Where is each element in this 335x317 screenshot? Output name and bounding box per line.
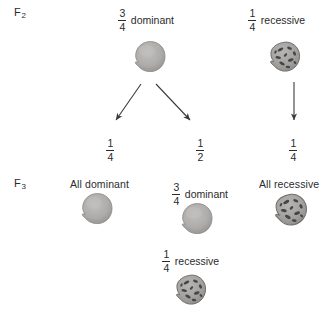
generation-label-f2-text: F xyxy=(14,6,21,18)
f2-dominant-word: dominant xyxy=(131,14,174,26)
f2-dominant-label: 3 4 dominant xyxy=(118,8,174,32)
f3-all-dominant-label: All dominant xyxy=(70,178,129,190)
f2-recessive-seed xyxy=(268,40,302,74)
f2-recessive-denominator: 4 xyxy=(248,21,257,33)
generation-label-f3-text: F xyxy=(14,177,21,189)
ratio-left-numerator: 1 xyxy=(106,138,115,150)
generation-label-f3: F3 xyxy=(14,177,26,189)
f3-segregating-dominant-word: dominant xyxy=(185,188,228,200)
f2-recessive-numerator: 1 xyxy=(248,8,257,20)
ratio-middle-denominator: 2 xyxy=(196,151,205,163)
ratio-left-denominator: 4 xyxy=(106,151,115,163)
f2-dominant-denominator: 4 xyxy=(118,21,127,33)
generation-label-f2: F2 xyxy=(14,6,26,18)
f2-dominant-seed xyxy=(133,40,167,74)
f3-all-dominant-seed xyxy=(80,192,114,226)
ratio-left: 1 4 xyxy=(106,138,115,162)
f3-segregating-dominant-numerator: 3 xyxy=(172,182,181,194)
f3-segregating-recessive-denominator: 4 xyxy=(162,262,171,274)
arrow-f2-dominant-to-middle xyxy=(156,84,190,120)
ratio-right-numerator: 1 xyxy=(289,138,298,150)
ratio-middle-fraction: 1 2 xyxy=(196,138,205,162)
f2-recessive-word: recessive xyxy=(261,14,305,26)
generation-label-f3-subscript: 3 xyxy=(21,182,26,191)
f3-segregating-recessive-word: recessive xyxy=(175,255,219,267)
ratio-middle-numerator: 1 xyxy=(196,138,205,150)
ratio-right-fraction: 1 4 xyxy=(289,138,298,162)
f2-recessive-fraction: 1 4 xyxy=(248,8,257,32)
ratio-middle: 1 2 xyxy=(196,138,205,162)
f2-dominant-numerator: 3 xyxy=(118,8,127,20)
arrow-f2-dominant-to-left xyxy=(116,84,141,120)
f3-segregating-recessive-label: 1 4 recessive xyxy=(162,249,219,273)
ratio-right-denominator: 4 xyxy=(289,151,298,163)
generation-label-f2-subscript: 2 xyxy=(21,11,26,20)
f2-dominant-fraction: 3 4 xyxy=(118,8,127,32)
f3-segregating-recessive-seed xyxy=(174,273,208,307)
f3-all-recessive-label: All recessive xyxy=(259,178,319,190)
genetics-inheritance-diagram: F2 F3 3 4 dominant 1 4 recessive xyxy=(0,0,335,317)
f2-recessive-label: 1 4 recessive xyxy=(248,8,305,32)
f3-segregating-recessive-fraction: 1 4 xyxy=(162,249,171,273)
f3-segregating-recessive-numerator: 1 xyxy=(162,249,171,261)
ratio-right: 1 4 xyxy=(289,138,298,162)
f3-all-recessive-seed xyxy=(273,192,309,228)
f3-segregating-dominant-seed xyxy=(180,202,214,236)
ratio-left-fraction: 1 4 xyxy=(106,138,115,162)
